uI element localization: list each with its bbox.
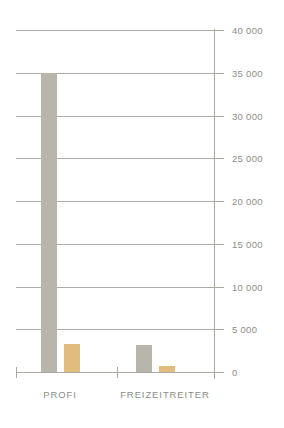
y-axis-line [214, 29, 215, 379]
bar-chart: 05 00010 00015 00020 00025 00030 00035 0… [0, 0, 284, 428]
y-axis-tick-label: 25 000 [232, 153, 263, 164]
y-axis-tick-label: 15 000 [232, 238, 263, 249]
y-axis-tick [214, 201, 224, 202]
y-axis-tick [214, 329, 224, 330]
y-axis-tick [214, 30, 224, 31]
x-axis-baseline [16, 372, 214, 373]
y-axis-tick-label: 5 000 [232, 324, 257, 335]
bar [136, 345, 152, 372]
x-axis-group-tick [117, 367, 118, 378]
x-axis-group-tick [16, 367, 17, 378]
category-label: PROFI [43, 389, 77, 400]
bar [41, 73, 57, 372]
y-axis-tick-label: 20 000 [232, 196, 263, 207]
bars-layer [16, 30, 214, 372]
y-axis-tick-label: 0 [232, 367, 238, 378]
plot-area [16, 30, 214, 372]
y-axis-tick [214, 244, 224, 245]
y-axis-tick [214, 116, 224, 117]
bar [64, 344, 80, 372]
y-axis-tick-label: 35 000 [232, 67, 263, 78]
category-label: FREIZEITREITER [120, 389, 210, 400]
y-axis-tick [214, 372, 224, 373]
y-axis-tick-label: 30 000 [232, 110, 263, 121]
y-axis-tick [214, 158, 224, 159]
y-axis-tick-label: 10 000 [232, 281, 263, 292]
y-axis-tick-label: 40 000 [232, 25, 263, 36]
y-axis-tick [214, 73, 224, 74]
y-axis-tick [214, 287, 224, 288]
